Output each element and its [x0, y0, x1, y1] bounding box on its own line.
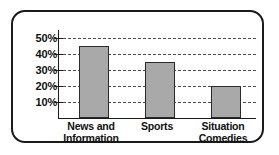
y-axis-tick-20	[54, 86, 63, 87]
x-axis-label-line-1: Sports	[124, 120, 190, 132]
x-axis-label-line-2: Information	[58, 132, 124, 144]
bar-sports	[145, 62, 175, 118]
plot-area	[58, 30, 256, 118]
x-axis-line	[58, 118, 256, 119]
y-axis-tick-50	[54, 38, 63, 39]
bar-situation-comedies	[211, 86, 241, 118]
x-axis-label-news-and-information: News andInformation	[58, 120, 124, 144]
y-axis-line	[58, 30, 59, 118]
x-axis-label-sports: Sports	[124, 120, 190, 132]
y-axis-tick-labels: 10%20%30%40%50%	[19, 30, 57, 118]
x-axis-label-line-1: News and	[58, 120, 124, 132]
x-axis-label-situation-comedies: SituationComedies	[190, 120, 256, 144]
y-axis-label-40pct: 40%	[23, 49, 57, 59]
x-axis-label-line-1: Situation	[190, 120, 256, 132]
x-axis-category-labels: News andInformationSportsSituationComedi…	[58, 120, 256, 146]
y-axis-label-50pct: 50%	[23, 33, 57, 43]
y-axis-tick-40	[54, 54, 63, 55]
y-axis-label-10pct: 10%	[23, 97, 57, 107]
gridline-50	[58, 38, 256, 39]
y-axis-tick-10	[54, 102, 63, 103]
bar-news-and-information	[79, 46, 109, 118]
x-axis-label-line-2: Comedies	[190, 132, 256, 144]
y-axis-label-20pct: 20%	[23, 81, 57, 91]
y-axis-tick-30	[54, 70, 63, 71]
chart-plot-wrapper: 10%20%30%40%50% News andInformationSport…	[13, 12, 262, 141]
chart-frame: 10%20%30%40%50% News andInformationSport…	[11, 10, 264, 143]
y-axis-label-30pct: 30%	[23, 65, 57, 75]
